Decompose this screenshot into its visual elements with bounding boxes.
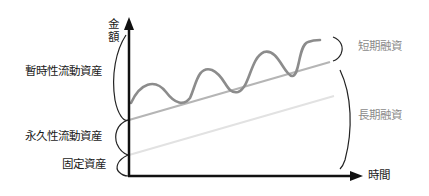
long-term-brace xyxy=(340,70,350,169)
x-axis-arrow-icon xyxy=(350,171,363,181)
temporary-assets-brace xyxy=(114,35,128,120)
y-axis-arrow-icon xyxy=(124,17,134,30)
fixed-assets-trend-line xyxy=(129,96,334,155)
y-axis-label-line-2: 額 xyxy=(106,31,120,44)
label-fixed-assets: 固定資産 xyxy=(62,159,106,171)
label-short-term-financing: 短期融資 xyxy=(358,41,402,53)
x-axis-label: 時間 xyxy=(368,170,390,182)
total-assets-wave xyxy=(131,40,320,103)
short-term-brace xyxy=(333,37,342,61)
label-permanent-current-assets: 永久性流動資産 xyxy=(25,131,102,143)
permanent-assets-brace xyxy=(116,120,128,155)
label-temporary-current-assets: 暫時性流動資産 xyxy=(25,66,102,78)
label-long-term-financing: 長期融資 xyxy=(358,110,402,122)
y-axis-label: 金 額 xyxy=(106,18,120,44)
fixed-assets-brace xyxy=(117,155,128,176)
